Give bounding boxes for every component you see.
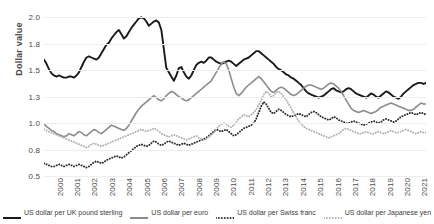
gridline: [44, 123, 426, 124]
series-line-3: [44, 91, 426, 147]
y-axis-tick-0: 2.0: [18, 13, 40, 22]
y-axis-tick-4: 1.0: [18, 119, 40, 128]
x-axis-tick-labels: 2000200120022003200420052006200720082009…: [44, 178, 426, 202]
x-axis-tick-2013: 2013: [281, 178, 290, 196]
series-line-1: [44, 62, 426, 137]
x-axis-tick-2012: 2012: [264, 178, 273, 196]
legend-swatch-icon-1: [130, 208, 148, 216]
x-axis-tick-2009: 2009: [212, 178, 221, 196]
x-axis-tick-2017: 2017: [351, 178, 360, 196]
gridline: [44, 97, 426, 98]
x-axis-tick-2015: 2015: [316, 178, 325, 196]
x-axis-tick-2010: 2010: [229, 178, 238, 196]
y-axis-tick-2: 1.5: [18, 66, 40, 75]
y-axis-tick-1: 1.8: [18, 39, 40, 48]
legend-item-3[interactable]: US dollar per Japanese yen: [324, 208, 431, 216]
gridline: [44, 17, 426, 18]
x-axis-tick-2007: 2007: [177, 178, 186, 196]
x-axis-tick-2014: 2014: [299, 178, 308, 196]
x-axis-tick-2001: 2001: [73, 178, 82, 196]
series-canvas: [44, 12, 426, 176]
y-axis-tick-5: 0.8: [18, 145, 40, 154]
legend-label-0: US dollar per UK pound sterling: [24, 209, 122, 216]
legend-item-2[interactable]: US dollar per Swiss franc: [216, 208, 316, 216]
legend-item-1[interactable]: US dollar per euro: [130, 208, 208, 216]
gridline: [44, 70, 426, 71]
x-axis-tick-2006: 2006: [160, 178, 169, 196]
x-axis-tick-2004: 2004: [125, 178, 134, 196]
legend-swatch-icon-0: [3, 208, 21, 216]
x-axis-tick-2008: 2008: [195, 178, 204, 196]
gridline: [44, 150, 426, 151]
y-axis-tick-labels: 2.01.81.51.31.00.80.5: [18, 0, 40, 180]
legend-label-3: US dollar per Japanese yen: [345, 209, 431, 216]
line-chart: Dollar value 2.01.81.51.31.00.80.5 20002…: [0, 0, 434, 224]
x-axis-tick-2011: 2011: [247, 178, 256, 196]
legend-item-0[interactable]: US dollar per UK pound sterling: [3, 208, 122, 216]
y-axis-tick-3: 1.3: [18, 92, 40, 101]
legend-swatch-icon-3: [324, 208, 342, 216]
x-axis-tick-2000: 2000: [56, 178, 65, 196]
plot-area: [44, 12, 426, 176]
x-axis-tick-2020: 2020: [403, 178, 412, 196]
x-axis-tick-2021: 2021: [420, 178, 429, 196]
legend-swatch-icon-2: [216, 208, 234, 216]
y-axis-tick-6: 0.5: [18, 172, 40, 181]
legend-label-2: US dollar per Swiss franc: [237, 209, 316, 216]
x-axis-tick-2018: 2018: [368, 178, 377, 196]
x-axis-tick-2016: 2016: [334, 178, 343, 196]
chart-legend: US dollar per UK pound sterlingUS dollar…: [0, 203, 434, 221]
x-axis-tick-2003: 2003: [108, 178, 117, 196]
x-axis-tick-2019: 2019: [386, 178, 395, 196]
gridline: [44, 176, 426, 177]
x-axis-tick-2002: 2002: [90, 178, 99, 196]
series-line-0: [44, 17, 426, 98]
legend-label-1: US dollar per euro: [151, 209, 208, 216]
x-axis-tick-2005: 2005: [143, 178, 152, 196]
gridline: [44, 44, 426, 45]
